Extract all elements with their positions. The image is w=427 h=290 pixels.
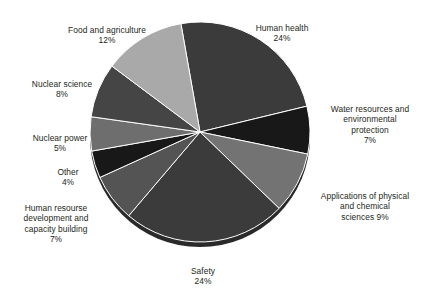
slice-label-nuclear-power: Nuclear power 5% xyxy=(8,122,112,164)
slice-label-safety: Safety 24% xyxy=(160,255,246,290)
slice-label-human-resource-development: Human resourse development and capacity … xyxy=(4,192,108,256)
slice-label-food-and-agriculture-text: Food and agriculture xyxy=(68,25,146,35)
slice-label-water-resources: Water resources and environmental protec… xyxy=(316,93,424,157)
slice-label-nuclear-power-value: 5% xyxy=(8,143,112,154)
slice-label-human-health: Human health 24% xyxy=(232,12,332,54)
slice-label-human-health-value: 24% xyxy=(232,33,332,44)
slice-label-applications: Applications of physical and chemical sc… xyxy=(306,180,424,222)
slice-label-water-resources-value: 7% xyxy=(316,135,424,146)
slice-label-applications-text: Applications of physical and chemical xyxy=(321,191,409,212)
slice-label-food-and-agriculture: Food and agriculture 12% xyxy=(42,14,172,56)
slice-label-nuclear-science-value: 8% xyxy=(12,89,112,100)
slice-label-applications-value: sciences 9% xyxy=(341,212,389,222)
slice-label-nuclear-power-text: Nuclear power xyxy=(33,133,88,143)
slice-label-food-and-agriculture-value: 12% xyxy=(42,35,172,46)
slice-label-other-text: Other xyxy=(57,167,78,177)
slice-label-human-health-text: Human health xyxy=(256,23,309,33)
pie-chart-figure: Human health 24% Water resources and env… xyxy=(0,0,427,290)
slice-label-safety-text: Safety xyxy=(191,266,215,276)
slice-label-safety-value: 24% xyxy=(160,276,246,287)
slice-label-water-resources-text: Water resources and environmental protec… xyxy=(331,104,409,135)
slice-label-other-value: 4% xyxy=(26,177,110,188)
slice-label-nuclear-science: Nuclear science 8% xyxy=(12,68,112,110)
slice-label-human-resource-development-value: 7% xyxy=(4,234,108,245)
slice-label-human-resource-development-text: Human resourse development and capacity … xyxy=(23,203,88,234)
slice-label-nuclear-science-text: Nuclear science xyxy=(32,79,92,89)
